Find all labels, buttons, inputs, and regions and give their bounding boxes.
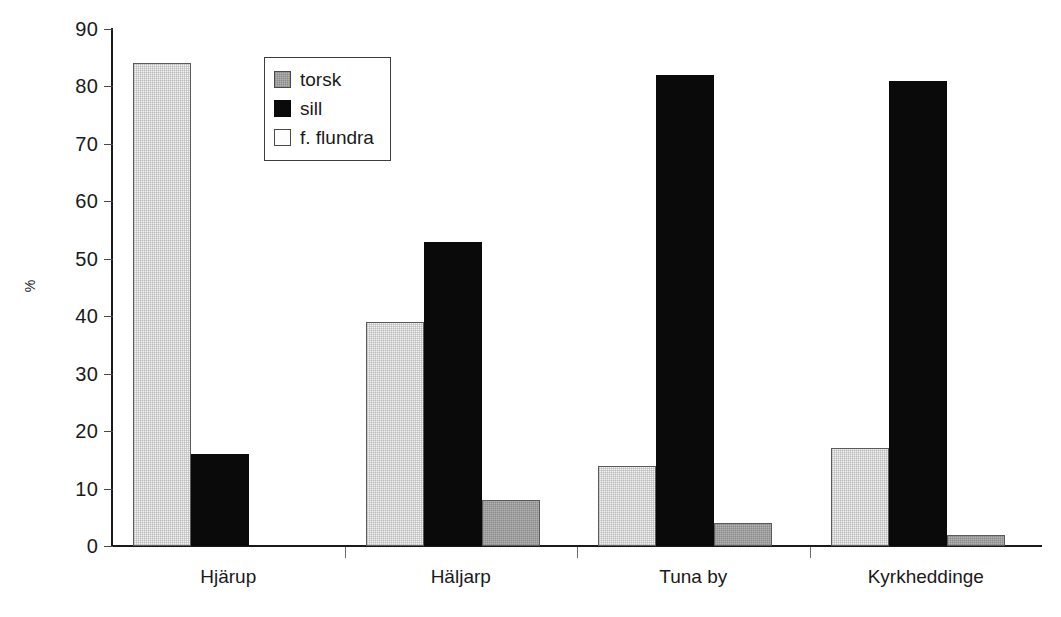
bar	[831, 448, 889, 546]
bar	[366, 322, 424, 546]
y-tick-label: 0	[24, 536, 98, 556]
chart-legend: torsksillf. flundra	[264, 57, 391, 161]
x-axis-separator	[345, 547, 346, 558]
bar	[889, 81, 947, 546]
bar	[191, 454, 249, 546]
legend-item: f. flundra	[274, 123, 374, 152]
bar	[424, 242, 482, 546]
y-tick-label: 60	[24, 191, 98, 211]
gray-swatch-icon	[274, 71, 291, 88]
legend-item: sill	[274, 94, 374, 123]
bar	[133, 63, 191, 546]
y-tick-label: 50	[24, 249, 98, 269]
white-swatch-icon	[274, 129, 291, 146]
bar	[947, 535, 1005, 546]
legend-item-label: torsk	[300, 70, 341, 89]
chart-canvas: % 9080706050403020100 HjärupHäljarpTuna …	[0, 0, 1061, 617]
y-tick-label: 90	[24, 19, 98, 39]
plot-area	[112, 29, 1042, 546]
bar	[656, 75, 714, 546]
bar	[714, 523, 772, 546]
x-axis-category-label: Tuna by	[659, 566, 727, 588]
legend-item-label: f. flundra	[300, 128, 374, 147]
y-tick-label: 70	[24, 134, 98, 154]
y-tick-mark	[104, 546, 113, 547]
bar	[598, 466, 656, 546]
x-axis-category-label: Hjärup	[200, 566, 256, 588]
y-tick-label: 20	[24, 421, 98, 441]
bar	[482, 500, 540, 546]
legend-item: torsk	[274, 65, 374, 94]
y-tick-label: 80	[24, 76, 98, 96]
y-tick-label: 10	[24, 479, 98, 499]
legend-item-label: sill	[300, 99, 322, 118]
x-axis-separator	[577, 547, 578, 558]
y-axis-title: %	[22, 280, 38, 292]
black-swatch-icon	[274, 100, 291, 117]
x-axis-category-label: Häljarp	[431, 566, 491, 588]
y-tick-label: 30	[24, 364, 98, 384]
y-tick-label: 40	[24, 306, 98, 326]
x-axis-separator	[810, 547, 811, 558]
x-axis-category-label: Kyrkheddinge	[868, 566, 984, 588]
